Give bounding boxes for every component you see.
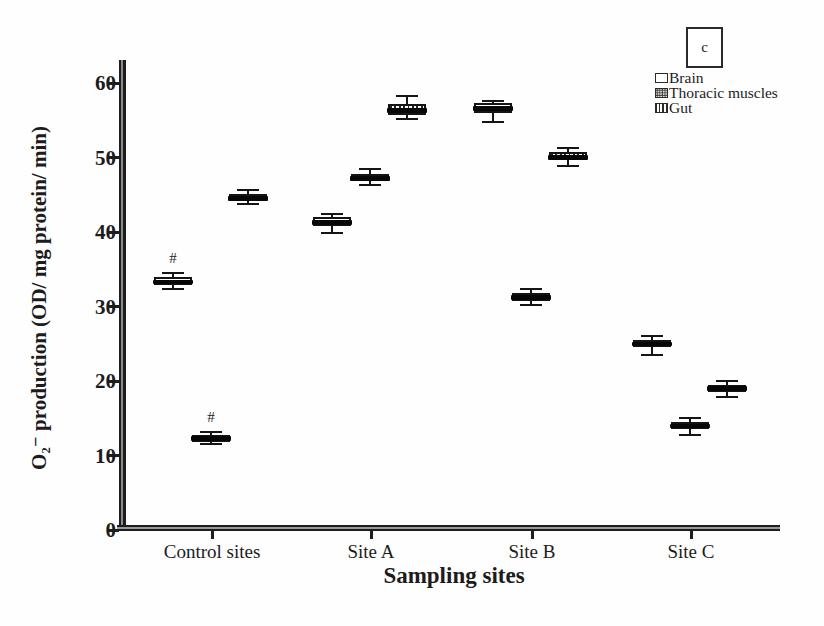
median-line	[670, 424, 710, 428]
thoracic-muscles-swatch-icon	[655, 88, 668, 98]
gut-swatch-icon	[655, 103, 668, 113]
x-category-label: Site B	[462, 541, 602, 563]
panel-letter: c	[701, 39, 708, 56]
y-tick-label: 20	[60, 369, 116, 393]
whisker-upper	[406, 96, 408, 104]
x-tick-mark	[531, 531, 534, 539]
whisker-cap-lower	[520, 304, 542, 306]
whisker-cap-upper	[557, 147, 579, 149]
whisker-cap-upper	[396, 95, 418, 97]
legend: BrainThoracic musclesGut	[655, 70, 778, 115]
legend-item-label: Gut	[669, 100, 692, 115]
median-line	[350, 176, 390, 180]
whisker-cap-lower	[557, 165, 579, 167]
median-line	[228, 196, 268, 200]
whisker-cap-lower	[396, 118, 418, 120]
x-tick-mark	[690, 531, 693, 539]
whisker-cap-upper	[482, 100, 504, 102]
whisker-cap-lower	[200, 443, 222, 445]
legend-item-label: Thoracic muscles	[669, 85, 778, 100]
x-axis-line	[117, 525, 780, 531]
median-line	[511, 295, 551, 299]
whisker-cap-lower	[321, 232, 343, 234]
y-tick-label: 50	[60, 146, 116, 170]
legend-item-label: Brain	[669, 70, 703, 85]
median-line	[632, 342, 672, 346]
whisker-cap-upper	[200, 431, 222, 433]
whisker-cap-upper	[520, 288, 542, 290]
x-category-label: Site A	[301, 541, 441, 563]
whisker-cap-upper	[321, 213, 343, 215]
median-line	[191, 436, 231, 440]
whisker-cap-lower	[359, 184, 381, 186]
whisker-cap-lower	[237, 203, 259, 205]
boxplot-figure: O₂⁻ production (OD/ mg protein/ min) Sam…	[0, 0, 824, 626]
median-line	[548, 155, 588, 159]
median-line	[312, 220, 352, 224]
whisker-cap-upper	[679, 417, 701, 419]
significance-marker: #	[202, 409, 220, 426]
whisker-cap-upper	[359, 168, 381, 170]
y-tick-label: 60	[60, 71, 116, 95]
brain-swatch-icon	[655, 73, 668, 83]
legend-item: Gut	[655, 100, 778, 115]
whisker-cap-upper	[716, 380, 738, 382]
x-tick-mark	[211, 531, 214, 539]
median-line	[473, 106, 513, 110]
legend-item: Thoracic muscles	[655, 85, 778, 100]
median-line	[707, 386, 747, 390]
whisker-cap-lower	[679, 434, 701, 436]
whisker-cap-lower	[716, 396, 738, 398]
whisker-cap-upper	[641, 335, 663, 337]
whisker-cap-upper	[237, 189, 259, 191]
y-axis-line	[119, 60, 126, 531]
whisker-cap-upper	[162, 272, 184, 274]
y-axis-title: O₂⁻ production (OD/ mg protein/ min)	[26, 58, 52, 538]
whisker-cap-lower	[641, 354, 663, 356]
x-category-label: Site C	[621, 541, 761, 563]
significance-marker: #	[164, 250, 182, 267]
x-tick-mark	[370, 531, 373, 539]
y-tick-label: 30	[60, 295, 116, 319]
panel-letter-box: c	[686, 27, 723, 68]
x-axis-title: Sampling sites	[304, 563, 604, 589]
x-category-label: Control sites	[142, 541, 282, 563]
median-line	[153, 280, 193, 284]
legend-item: Brain	[655, 70, 778, 85]
y-tick-label: 40	[60, 220, 116, 244]
whisker-cap-lower	[162, 288, 184, 290]
whisker-cap-lower	[482, 121, 504, 123]
y-tick-label: 10	[60, 444, 116, 468]
median-line	[387, 108, 427, 112]
y-tick-label: 0	[60, 518, 116, 542]
